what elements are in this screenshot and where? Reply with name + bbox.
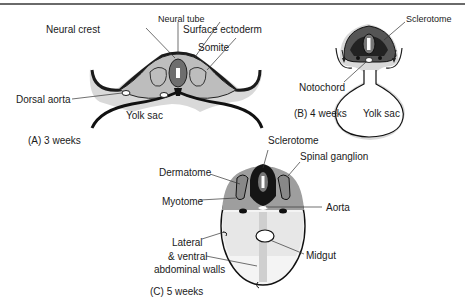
label-sclerotome-b: Sclerotome: [406, 14, 452, 25]
label-lateral: Lateral: [172, 237, 203, 248]
label-spinal-ganglion: Spinal ganglion: [300, 151, 368, 162]
label-aorta: Aorta: [326, 202, 350, 213]
label-neural-crest: Neural crest: [46, 24, 100, 35]
label-myotome: Myotome: [162, 196, 203, 207]
label-somite: Somite: [198, 42, 229, 53]
label-yolk-sac-a: Yolk sac: [126, 110, 163, 121]
caption-panel-a: (A) 3 weeks: [28, 135, 81, 146]
label-sclerotome-c: Sclerotome: [268, 135, 319, 146]
embryo-cross-section-diagram: [0, 0, 465, 308]
label-dorsal-aorta: Dorsal aorta: [16, 94, 70, 105]
caption-panel-c: (C) 5 weeks: [150, 286, 203, 297]
label-notochord: Notochord: [299, 82, 345, 93]
label-midgut: Midgut: [306, 250, 336, 261]
panel-b-drawing: [334, 22, 405, 140]
label-ventral: & ventral: [168, 251, 207, 262]
label-abdominal-walls: abdominal walls: [154, 264, 225, 275]
label-yolk-sac-b: Yolk sac: [363, 108, 400, 119]
label-dermatome: Dermatome: [159, 167, 211, 178]
label-surface-ectoderm: Surface ectoderm: [183, 24, 262, 35]
caption-panel-b: (B) 4 weeks: [294, 108, 347, 119]
panel-a-drawing: [72, 22, 262, 128]
